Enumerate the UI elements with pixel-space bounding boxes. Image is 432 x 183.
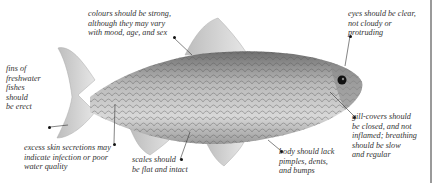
- fins-marker: [48, 126, 51, 129]
- skin-annotation: excess skin secretions may indicate infe…: [24, 143, 111, 172]
- colours-marker: [173, 36, 176, 39]
- gills-annotation: gill-covers should be closed, and not in…: [352, 112, 417, 160]
- body-annotation: body should lack pimples, dents, and bum…: [279, 147, 334, 176]
- eyes-annotation: eyes should be clear, not cloudy or prot…: [348, 9, 416, 38]
- scales-annotation: scales should be flat and intact: [132, 155, 188, 174]
- fish-health-diagram: colours should be strong, although they …: [0, 0, 432, 183]
- colours-annotation: colours should be strong, although they …: [88, 9, 171, 38]
- fins-annotation: fins of freshwater fishes should be erec…: [6, 64, 41, 112]
- skin-marker: [113, 143, 116, 146]
